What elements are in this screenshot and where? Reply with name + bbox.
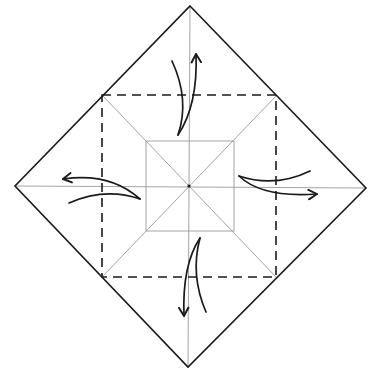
origami-diagram xyxy=(0,0,380,389)
diagram-canvas xyxy=(0,0,380,389)
center-point xyxy=(187,184,190,187)
fold-arrow-right-icon xyxy=(239,171,317,195)
